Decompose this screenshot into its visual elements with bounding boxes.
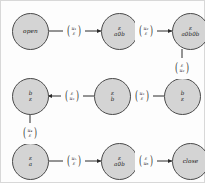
paren-right-icon: ) bbox=[78, 25, 81, 38]
edge-label-stack: ε u₂ bbox=[179, 64, 184, 74]
paren-left-icon: ( bbox=[65, 90, 68, 103]
state-b-eps-left[interactable]: b ε bbox=[12, 78, 49, 115]
state-eps-b[interactable]: ε b bbox=[94, 78, 131, 115]
state-b-eps-left-bottom: ε bbox=[29, 97, 32, 103]
state-eps-a0b-bottom: a0b bbox=[114, 32, 125, 38]
paren-right-icon: ) bbox=[146, 90, 149, 103]
edge-label-b-to-epsa: ( u₄ ε ) bbox=[19, 123, 41, 144]
paren-left-icon: ( bbox=[23, 127, 26, 140]
edge-label-a0b0b-to-b: ( ε u₂ ) bbox=[171, 58, 193, 79]
paren-right-icon: ) bbox=[78, 155, 81, 168]
edge-label-a0b-to-a0b0b: ( u₂ ε ) bbox=[135, 21, 157, 42]
paren-left-icon: ( bbox=[139, 25, 142, 38]
edge-den: u₃ bbox=[70, 97, 75, 102]
edge-label-stack: u₁ ε bbox=[71, 27, 76, 37]
state-eps-a0b0b-bottom: a0b0b bbox=[181, 32, 199, 38]
edge-label-stack: u₄ ε bbox=[27, 129, 32, 139]
edge-label-stack: ε u₃ bbox=[69, 92, 74, 102]
edge-den: u₂ bbox=[180, 69, 185, 74]
edge-den: ε bbox=[29, 134, 31, 139]
edge-label-stack: u₂ ε bbox=[143, 27, 148, 37]
edge-label-a0b-to-close: ( ε u₆ ) bbox=[135, 151, 157, 172]
paren-right-icon: ) bbox=[150, 155, 153, 168]
paren-right-icon: ) bbox=[186, 62, 189, 75]
state-eps-a0b[interactable]: ε a0b bbox=[101, 13, 138, 50]
state-eps-a[interactable]: ε a bbox=[12, 143, 49, 180]
edge-den: ε bbox=[73, 162, 75, 167]
edge-den: ε bbox=[145, 32, 147, 37]
state-close-label: close bbox=[183, 159, 199, 165]
edge-label-stack: ε u₆ bbox=[143, 157, 148, 167]
paren-left-icon: ( bbox=[139, 155, 142, 168]
state-close[interactable]: close bbox=[172, 143, 205, 180]
state-eps-a0b-2[interactable]: ε a0b bbox=[101, 143, 138, 180]
edge-den: ε bbox=[141, 97, 143, 102]
edge-label-b-to-epsb: ( u₃ ε ) bbox=[131, 86, 153, 107]
paren-right-icon: ) bbox=[150, 25, 153, 38]
edge-label-stack: u₅ ε bbox=[71, 157, 76, 167]
paren-right-icon: ) bbox=[34, 127, 37, 140]
state-open-label: open bbox=[23, 29, 38, 35]
state-eps-a0b0b[interactable]: ε a0b0b bbox=[172, 13, 205, 50]
state-b-eps-right-bottom: ε bbox=[181, 97, 184, 103]
state-eps-b-bottom: b bbox=[111, 97, 115, 103]
paren-left-icon: ( bbox=[175, 62, 178, 75]
paren-left-icon: ( bbox=[135, 90, 138, 103]
paren-right-icon: ) bbox=[76, 90, 79, 103]
edge-den: u₆ bbox=[144, 162, 149, 167]
edge-label-epsb-to-b: ( ε u₃ ) bbox=[61, 86, 83, 107]
state-eps-a-bottom: a bbox=[29, 162, 32, 168]
edge-label-epsa-to-a0b: ( u₅ ε ) bbox=[63, 151, 85, 172]
state-eps-a0b-2-bottom: a0b bbox=[114, 162, 125, 168]
edge-den: ε bbox=[73, 32, 75, 37]
edge-label-stack: u₃ ε bbox=[139, 92, 144, 102]
diagram-canvas: open ε a0b ε a0b0b b ε ε b b ε ε a ε a0b… bbox=[0, 0, 205, 183]
paren-left-icon: ( bbox=[67, 155, 70, 168]
paren-left-icon: ( bbox=[67, 25, 70, 38]
state-b-eps-right[interactable]: b ε bbox=[164, 78, 201, 115]
state-open[interactable]: open bbox=[12, 13, 49, 50]
edge-label-open-to-a0b: ( u₁ ε ) bbox=[63, 21, 85, 42]
